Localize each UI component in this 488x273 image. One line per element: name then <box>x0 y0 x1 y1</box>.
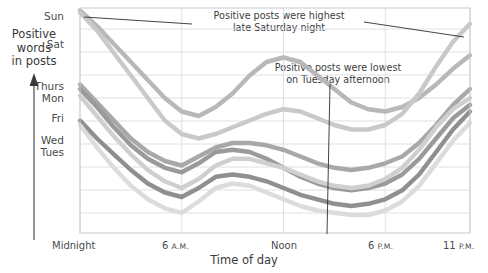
series-line-tues <box>80 123 470 215</box>
series-lines <box>80 10 470 215</box>
chart-container: Positive words in posts Sun Sat Thurs Mo… <box>0 0 488 273</box>
y-axis-arrow-icon <box>30 73 39 240</box>
leader-line-highest <box>84 17 464 37</box>
plot-svg <box>0 0 488 273</box>
series-line-sat <box>80 13 470 139</box>
plot-frame <box>80 8 470 233</box>
gridlines <box>80 8 470 233</box>
